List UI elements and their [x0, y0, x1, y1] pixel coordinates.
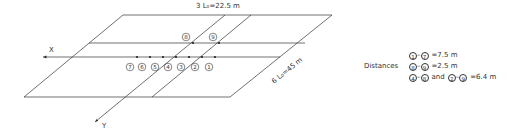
legend-row-4-8-2-9: 4 – 8 and 2 – 9 =6.4 m	[364, 72, 496, 83]
point-label-8: 8	[184, 34, 188, 40]
legend-title: Distances	[364, 61, 409, 72]
distance-value: =6.4 m	[470, 72, 496, 83]
plate-outline	[24, 15, 332, 97]
point-marker-icon: 8	[409, 63, 417, 71]
transverse-line	[152, 15, 251, 97]
legend-row-8-9: Distances 8 – 9 =2.5 m	[364, 61, 496, 72]
point-marker-icon: 9	[421, 63, 429, 71]
point-marker-icon: 1	[409, 52, 417, 60]
point-marker-icon: 2	[448, 74, 456, 82]
point-label-1: 1	[207, 64, 211, 70]
measurement-point-1	[214, 56, 216, 58]
legend-row-1-7: 1 – 7 =7.5 m	[364, 50, 496, 61]
point-marker-icon: 7	[421, 52, 429, 60]
distances-legend: 1 – 7 =7.5 m Distances 8 – 9 =2.5 m 4 – …	[364, 50, 496, 83]
point-marker-icon: 4	[409, 74, 417, 82]
point-label-5: 5	[153, 64, 157, 70]
point-label-7: 7	[128, 64, 132, 70]
measurement-points-row: 7654321	[126, 56, 216, 71]
point-label-2: 2	[193, 64, 197, 70]
y-axis-label: Y	[101, 122, 107, 130]
point-marker-icon: 8	[421, 74, 429, 82]
point-label-9: 9	[211, 34, 215, 40]
measurement-point-9	[218, 42, 220, 44]
x-axis-label: X	[49, 46, 54, 54]
point-label-6: 6	[140, 64, 144, 70]
measurement-point-6	[149, 56, 151, 58]
measurement-point-4	[175, 56, 177, 58]
point-marker-icon: 9	[459, 74, 467, 82]
distance-value: =2.5 m	[432, 61, 458, 72]
top-dimension-label: 3 L₀=22.5 m	[196, 2, 240, 10]
distance-value: =7.5 m	[432, 50, 458, 61]
point-label-3: 3	[179, 64, 183, 70]
measurement-point-2	[201, 56, 203, 58]
measurement-point-7	[136, 56, 138, 58]
measurement-point-3	[188, 56, 190, 58]
measurement-point-8	[192, 42, 194, 44]
measurement-point-5	[162, 56, 164, 58]
point-label-4: 4	[166, 64, 170, 70]
